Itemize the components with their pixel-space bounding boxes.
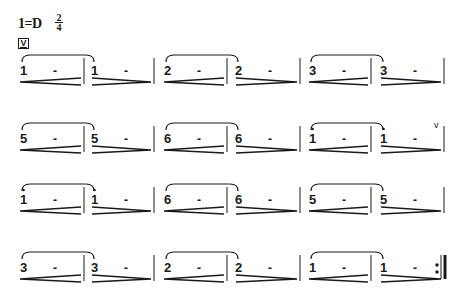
- crescendo-hairpin-icon: [20, 146, 81, 153]
- decrescendo-hairpin-icon: [236, 275, 297, 282]
- note-5: 5: [309, 193, 316, 206]
- repeat-dot-icon: [435, 263, 438, 266]
- sustain-dash: -: [197, 194, 201, 206]
- note-6: 6: [164, 193, 171, 206]
- sustain-dash: -: [268, 65, 272, 77]
- sustain-dash: -: [53, 194, 57, 206]
- note-1: 1: [91, 193, 98, 206]
- slur-icon: [311, 55, 383, 62]
- decrescendo-hairpin-icon: [236, 207, 297, 214]
- decrescendo-hairpin-icon: [92, 275, 151, 282]
- sustain-dash: -: [197, 262, 201, 274]
- sustain-dash: -: [342, 262, 346, 274]
- sustain-dash: -: [342, 65, 346, 77]
- crescendo-hairpin-icon: [309, 146, 368, 153]
- octave-dot-icon: [93, 189, 96, 192]
- crescendo-hairpin-icon: [309, 78, 368, 85]
- sustain-dash: -: [413, 262, 417, 274]
- note-5: 5: [91, 132, 98, 145]
- note-5: 5: [20, 132, 27, 145]
- note-1: 1: [380, 132, 387, 145]
- note-2: 2: [235, 261, 242, 274]
- note-6: 6: [235, 193, 242, 206]
- note-1: 1: [309, 261, 316, 274]
- decrescendo-hairpin-icon: [381, 146, 441, 153]
- decrescendo-hairpin-icon: [381, 207, 441, 214]
- sustain-dash: -: [413, 65, 417, 77]
- repeat-dot-icon: [435, 270, 438, 273]
- note-1: 1: [20, 64, 27, 77]
- note-6: 6: [235, 132, 242, 145]
- note-1: 1: [380, 261, 387, 274]
- sustain-dash: -: [413, 194, 417, 206]
- sustain-dash: -: [197, 133, 201, 145]
- note-1: 1: [20, 193, 27, 206]
- decrescendo-hairpin-icon: [381, 78, 441, 85]
- crescendo-hairpin-icon: [164, 207, 224, 214]
- slur-icon: [311, 123, 383, 130]
- slur-icon: [311, 184, 383, 191]
- slur-icon: [22, 55, 94, 62]
- note-6: 6: [164, 132, 171, 145]
- note-2: 2: [164, 261, 171, 274]
- decrescendo-hairpin-icon: [92, 207, 151, 214]
- sustain-dash: -: [53, 133, 57, 145]
- sustain-dash: -: [53, 65, 57, 77]
- note-1: 1: [309, 132, 316, 145]
- note-3: 3: [309, 64, 316, 77]
- decrescendo-hairpin-icon: [92, 146, 151, 153]
- note-3: 3: [91, 261, 98, 274]
- crescendo-hairpin-icon: [164, 78, 224, 85]
- crescendo-hairpin-icon: [164, 275, 224, 282]
- note-1: 1: [91, 64, 98, 77]
- sustain-dash: -: [342, 133, 346, 145]
- sustain-dash: -: [268, 194, 272, 206]
- note-3: 3: [380, 64, 387, 77]
- sustain-dash: -: [53, 262, 57, 274]
- sustain-dash: -: [268, 262, 272, 274]
- sustain-dash: -: [268, 133, 272, 145]
- octave-dot-icon: [382, 128, 385, 131]
- crescendo-hairpin-icon: [309, 275, 368, 282]
- decrescendo-hairpin-icon: [92, 78, 151, 85]
- score-staff: [0, 0, 465, 298]
- sustain-dash: -: [124, 262, 128, 274]
- note-5: 5: [380, 193, 387, 206]
- decrescendo-hairpin-icon: [236, 146, 297, 153]
- sustain-dash: -: [124, 133, 128, 145]
- slur-icon: [22, 252, 94, 259]
- crescendo-hairpin-icon: [20, 78, 81, 85]
- slur-icon: [22, 123, 94, 130]
- crescendo-hairpin-icon: [20, 207, 81, 214]
- decrescendo-hairpin-icon: [381, 275, 441, 282]
- sustain-dash: -: [197, 65, 201, 77]
- note-3: 3: [20, 261, 27, 274]
- sustain-dash: -: [342, 194, 346, 206]
- sustain-dash: -: [413, 133, 417, 145]
- slur-icon: [311, 252, 383, 259]
- decrescendo-hairpin-icon: [236, 78, 297, 85]
- breath-mark-icon: v: [434, 121, 439, 130]
- note-2: 2: [235, 64, 242, 77]
- crescendo-hairpin-icon: [20, 275, 81, 282]
- slur-icon: [22, 184, 94, 191]
- crescendo-hairpin-icon: [309, 207, 368, 214]
- sustain-dash: -: [124, 65, 128, 77]
- crescendo-hairpin-icon: [164, 146, 224, 153]
- note-2: 2: [164, 64, 171, 77]
- sustain-dash: -: [124, 194, 128, 206]
